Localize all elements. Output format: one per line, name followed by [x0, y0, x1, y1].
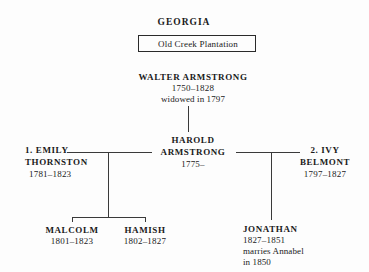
- plantation-label: Old Creek Plantation: [158, 39, 238, 49]
- family-tree-diagram: GEORGIA Old Creek Plantation WALTER ARMS…: [0, 0, 369, 272]
- jonathan-note-line2: in 1850: [243, 257, 271, 268]
- harold-armstrong-name-line1: HAROLD: [171, 135, 214, 146]
- harold-armstrong-name-line2: ARMSTRONG: [161, 147, 226, 158]
- emily-thornston-name-line1: 1. EMILY: [25, 145, 68, 156]
- hamish-name: HAMISH: [124, 225, 165, 236]
- sibling-bracket-tick-left: [72, 217, 73, 222]
- jonathan-note-line1: marries Annabel: [243, 246, 304, 257]
- jonathan-name: JONATHAN: [243, 224, 298, 235]
- harold-armstrong-years: 1775–: [181, 159, 205, 170]
- ivy-belmont-years: 1797–1827: [304, 169, 346, 180]
- plantation-box: Old Creek Plantation: [138, 35, 256, 52]
- walter-armstrong-name: WALTER ARMSTRONG: [138, 72, 247, 83]
- diagram-title: GEORGIA: [158, 17, 211, 28]
- ivy-belmont-name-line2: BELMONT: [300, 157, 350, 168]
- connector-marriage1-descent: [108, 152, 109, 218]
- emily-thornston-years: 1781–1823: [29, 169, 71, 180]
- sibling-bracket-bar: [72, 217, 146, 218]
- ivy-belmont-name-line1: 2. IVY: [310, 145, 339, 156]
- sibling-bracket-tick-right: [145, 217, 146, 222]
- marriage-line-left: [67, 152, 152, 153]
- malcolm-name: MALCOLM: [45, 225, 98, 236]
- emily-thornston-name-line2: THORNSTON: [25, 157, 88, 168]
- marriage-line-right: [236, 152, 300, 153]
- walter-armstrong-note: widowed in 1797: [161, 94, 225, 105]
- jonathan-years: 1827–1851: [243, 235, 285, 246]
- hamish-years: 1802–1827: [124, 236, 166, 247]
- malcolm-years: 1801–1823: [51, 236, 93, 247]
- connector-marriage2-descent: [271, 152, 272, 220]
- connector-walter-to-harold: [188, 106, 189, 132]
- walter-armstrong-years: 1750–1828: [172, 83, 214, 94]
